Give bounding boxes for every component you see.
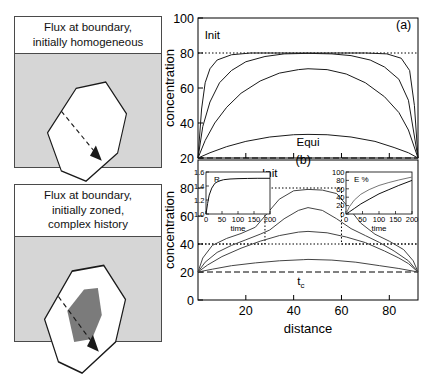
panel-label-b: (b) [296, 153, 311, 167]
caption-line: initially homogeneous [17, 35, 159, 50]
caption-line: Flux at boundary, [17, 20, 159, 35]
inset-x-tick-label: 100 [232, 215, 245, 224]
inset-x-tick-label: 100 [373, 215, 386, 224]
annotation-equi: Equi [296, 136, 319, 148]
inset-x-tick-label: 150 [248, 215, 261, 224]
inset-y-tick-label: 80 [336, 176, 344, 185]
inset-x-tick-label: 50 [218, 215, 226, 224]
inset-x-tick-label: 150 [389, 215, 402, 224]
inset-R-inset: 1.01.21.41.6050100150200timeR [194, 168, 276, 233]
y-axis-label-b: concentration [162, 191, 177, 269]
panel-label-a: (a) [396, 18, 411, 32]
schematic-drawing-zoned [15, 237, 161, 378]
y-axis-label-a: concentration [162, 49, 177, 127]
inset-x-axis-label: time [230, 224, 246, 233]
plots-container: 20406080100InitEqui(a)020406080Init(b)tc… [160, 8, 432, 360]
inset-y-tick-label: 100 [332, 168, 345, 177]
inset-y-tick-label: 40 [336, 193, 344, 202]
schematic-panel-homogeneous: Flux at boundary, initially homogeneous [14, 16, 162, 168]
caption-line: initially zoned, [17, 203, 159, 218]
inset-x-tick-label: 0 [344, 215, 348, 224]
caption-line: complex history [17, 217, 159, 232]
inset-title-E-inset: E % [354, 175, 369, 184]
annotation-tc: tc [297, 275, 304, 290]
inset-y-tick-label: 60 [336, 185, 344, 194]
inset-y-tick-label: 1.4 [194, 182, 204, 191]
y-tick-label-a: 20 [180, 152, 194, 166]
schematic-panel-zoned: Flux at boundary, initially zoned, compl… [14, 184, 162, 342]
y-tick-label-a: 40 [180, 117, 194, 131]
grain-outline [48, 82, 127, 181]
inset-y-tick-label: 1.2 [194, 196, 204, 205]
inset-x-tick-label: 50 [358, 215, 366, 224]
x-tick-label: 60 [335, 304, 349, 318]
schematic-caption-homogeneous: Flux at boundary, initially homogeneous [15, 17, 161, 54]
schematic-caption-zoned: Flux at boundary, initially zoned, compl… [15, 185, 161, 237]
profile-curve-t4 [198, 259, 418, 272]
inset-E-inset: 020406080100050100150200timeE % [332, 168, 418, 233]
inset-y-tick-label: 20 [336, 201, 344, 210]
y-tick-label-a: 60 [180, 82, 194, 96]
x-tick-label: 80 [382, 304, 396, 318]
schematic-drawing-homogeneous [15, 54, 161, 204]
inset-x-tick-label: 200 [264, 215, 277, 224]
inset-x-tick-label: 200 [406, 215, 419, 224]
caption-line: Flux at boundary, [17, 188, 159, 203]
annotation-init: Init [205, 29, 221, 41]
y-tick-label-b: 60 [180, 210, 194, 224]
y-tick-label-b: 40 [180, 238, 194, 252]
inset-x-tick-label: 0 [204, 215, 208, 224]
y-tick-label-b: 80 [180, 182, 194, 196]
y-tick-label-b: 20 [180, 266, 194, 280]
concentration-profiles-figure: 20406080100InitEqui(a)020406080Init(b)tc… [160, 8, 432, 360]
y-tick-label-b: 0 [187, 294, 194, 308]
x-tick-label: 40 [287, 304, 301, 318]
inset-x-axis-label: time [371, 224, 387, 233]
y-tick-label-a: 100 [173, 12, 194, 26]
panel-a: 20406080100InitEqui(a) [173, 12, 418, 166]
x-axis-label: distance [284, 321, 332, 336]
x-tick-label: 20 [239, 304, 253, 318]
inset-y-tick-label: 1.6 [194, 168, 204, 177]
y-tick-label-a: 80 [180, 47, 194, 61]
